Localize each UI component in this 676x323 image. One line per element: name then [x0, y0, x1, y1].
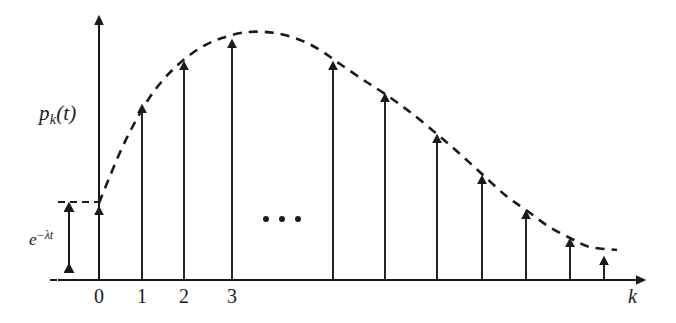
stem-group [99, 47, 604, 280]
axes-group [58, 24, 637, 281]
exponential-exponent: −λt [37, 228, 54, 242]
x-tick-label-1: 1 [129, 285, 155, 308]
exponential-bracket-group [50, 202, 99, 280]
x-tick-label-2: 2 [171, 285, 197, 308]
ellipsis-dots [263, 216, 301, 222]
exponential-bracket-label: e−λt [29, 228, 53, 250]
ellipsis-dot-2 [295, 216, 301, 222]
plot-canvas [0, 0, 676, 323]
y-axis-label: pk(t) [39, 101, 77, 128]
x-tick-label-3: 3 [219, 285, 245, 308]
ellipsis-dot-1 [279, 216, 285, 222]
envelope-group [99, 32, 617, 250]
y-axis-label-base: p [39, 101, 50, 125]
x-tick-label-0: 0 [86, 285, 112, 308]
poisson-stem-figure: pk(t) e−λt k 0123 [0, 0, 676, 323]
y-axis-label-argument: (t) [56, 101, 76, 125]
exponential-base: e [29, 230, 37, 249]
x-axis-label: k [628, 285, 637, 308]
ellipsis-dot-0 [263, 216, 269, 222]
poisson-envelope-curve [99, 32, 617, 250]
